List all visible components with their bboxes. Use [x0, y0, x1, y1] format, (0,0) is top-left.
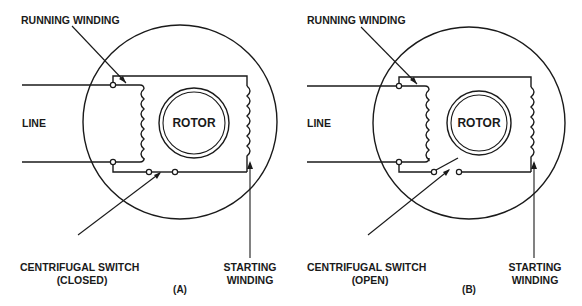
arrowhead-icon	[154, 172, 161, 179]
terminal-node	[396, 159, 401, 164]
starting-winding-coil	[531, 87, 534, 172]
arrowhead-icon	[247, 161, 253, 169]
running-feed	[115, 85, 144, 89]
lower-rail-left	[399, 164, 432, 172]
running-winding-label: RUNNING WINDING	[307, 14, 406, 26]
starting-label: STARTING	[224, 261, 277, 273]
terminal-node	[110, 82, 115, 87]
switch-state-label: (OPEN)	[352, 274, 389, 286]
terminal-node	[110, 159, 115, 164]
lower-rail-left	[113, 164, 147, 172]
switch-leader	[368, 170, 449, 235]
switch-state-label: (CLOSED)	[57, 274, 108, 286]
running-winding-label: RUNNING WINDING	[21, 14, 120, 26]
running-winding-coil	[115, 89, 144, 162]
terminal-node	[396, 83, 401, 88]
switch-blade-open	[436, 158, 458, 170]
motor-diagram: ROTOR LINE RUNNING WINDING CENTRIFUGAL S…	[0, 0, 582, 306]
panel-b: ROTOR LINE RUNNING WINDING CENTRIFUGAL S…	[307, 14, 565, 295]
switch-contact	[431, 169, 436, 174]
running-feed	[401, 86, 429, 90]
panel-a: ROTOR LINE RUNNING WINDING CENTRIFUGAL S…	[20, 14, 277, 295]
switch-label: CENTRIFUGAL SWITCH	[307, 261, 426, 273]
panel-caption: (A)	[173, 284, 187, 295]
starting-label: STARTING	[509, 261, 562, 273]
arrowhead-icon	[443, 169, 450, 176]
rotor-label: ROTOR	[172, 116, 215, 130]
line-label: LINE	[307, 117, 331, 129]
running-winding-leader	[72, 26, 126, 83]
arrowhead-icon	[531, 161, 537, 169]
rotor-label: ROTOR	[457, 116, 500, 130]
line-label: LINE	[22, 117, 46, 129]
starting-winding-coil	[247, 86, 250, 172]
running-winding-coil	[401, 90, 429, 162]
switch-contact	[456, 169, 461, 174]
running-winding-leader	[361, 27, 417, 84]
winding-label: WINDING	[227, 274, 274, 286]
switch-leader	[78, 173, 160, 235]
winding-label: WINDING	[512, 274, 559, 286]
switch-contact	[172, 169, 177, 174]
switch-contact	[146, 169, 151, 174]
panel-caption: (B)	[462, 284, 476, 295]
switch-label: CENTRIFUGAL SWITCH	[20, 261, 139, 273]
